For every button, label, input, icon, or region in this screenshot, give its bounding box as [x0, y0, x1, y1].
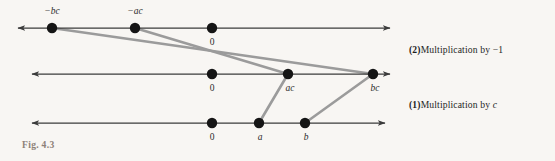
point-dot-b — [300, 118, 310, 128]
point-label-neg-ac: −ac — [127, 6, 143, 16]
middle-axis: 0 ac bc — [32, 69, 390, 93]
point-dot-ac — [283, 69, 293, 79]
legend-item-text-2: Multiplication by — [421, 44, 493, 55]
number-line-diagram: −bc −ac 0 0 ac bc 0 a b — [0, 0, 555, 161]
bottom-axis: 0 a b — [32, 118, 385, 142]
legend-item-number-2: (2) — [409, 44, 421, 55]
figure-caption: Fig. 4.3 — [22, 139, 55, 150]
point-label-a: a — [258, 132, 263, 142]
legend-item-value-2: −1 — [493, 44, 504, 55]
point-dot-neg-ac — [130, 23, 140, 33]
point-dot-zero-bottom — [207, 118, 217, 128]
connector-b-to-bc — [305, 74, 373, 123]
point-label-b: b — [304, 132, 309, 142]
legend-item-text-1: Multiplication by — [421, 99, 493, 110]
point-label-neg-bc: −bc — [44, 6, 60, 16]
figure-container: −bc −ac 0 0 ac bc 0 a b (2)Multiplicatio… — [0, 0, 555, 161]
point-label-zero-top: 0 — [210, 37, 215, 47]
connector-ac-to-neg-ac — [135, 28, 288, 74]
point-dot-a — [254, 118, 264, 128]
point-dot-bc — [368, 69, 378, 79]
point-dot-zero-middle — [207, 69, 217, 79]
point-label-ac: ac — [286, 83, 296, 93]
point-dot-neg-bc — [47, 23, 57, 33]
legend-item-value-1: c — [493, 99, 497, 110]
legend-item-multiplication-by-c: (1)Multiplication by c — [409, 99, 497, 110]
legend-item-multiplication-by-negative-one: (2)Multiplication by −1 — [409, 44, 503, 55]
top-axis: −bc −ac 0 — [18, 6, 390, 47]
point-dot-zero-top — [207, 23, 217, 33]
connector-a-to-ac — [259, 74, 288, 123]
legend-item-number-1: (1) — [409, 99, 421, 110]
point-label-zero-middle: 0 — [210, 83, 215, 93]
point-label-bc: bc — [371, 83, 381, 93]
point-label-zero-bottom: 0 — [210, 132, 215, 142]
